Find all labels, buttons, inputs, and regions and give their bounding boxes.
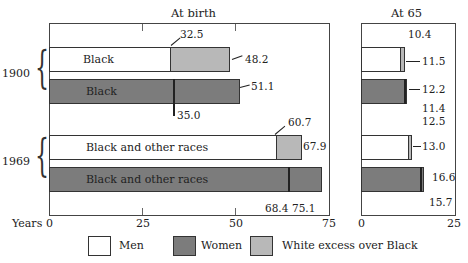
legend-swatch-women [173, 236, 196, 256]
brace-1900-icon: { [35, 46, 49, 90]
x-axis-label: Years [12, 217, 42, 230]
bar65-1969-men-black [361, 135, 409, 160]
bar-label-1969-women: Black and other races [86, 173, 208, 186]
bar-label-1900-men: Black [83, 53, 114, 66]
value65-1969-women-white: 16.6 [432, 171, 455, 183]
tick65-label-0: 0 [358, 217, 365, 230]
tick-bottom-25 [142, 208, 143, 215]
bar-1900-women [49, 79, 240, 104]
bar65-1969-men-white-excess [408, 135, 412, 160]
value-1900-women-white: 51.1 [251, 80, 274, 92]
value65-1900-women-black: 11.4 [422, 102, 445, 114]
value65-1969-women-black: 15.7 [429, 196, 452, 208]
legend-swatch-men [88, 236, 111, 256]
bar65-1969-women [361, 167, 424, 192]
bar65-1900-men-white-excess [400, 47, 405, 72]
divider-1900-women-black [173, 79, 175, 116]
bar-1900-men-white-excess [170, 47, 230, 72]
arrow65-1900-women-white-icon [409, 89, 420, 90]
tick-label-0: 0 [46, 217, 53, 230]
value65-1900-men-white: 11.5 [422, 55, 445, 67]
value-1969-men-black: 60.7 [288, 116, 311, 128]
value-1969-women-black: 68.4 [265, 202, 288, 214]
panel-title-at-65: At 65 [391, 6, 422, 20]
value65-1969-men-black: 12.5 [422, 115, 445, 127]
brace-1969-icon: { [35, 134, 49, 178]
tick-top-50 [235, 24, 236, 31]
tick-label-50: 50 [229, 217, 243, 230]
bar-label-1900-women: Black [86, 85, 117, 98]
divider65-1900-women [404, 79, 406, 104]
value65-1900-women-white: 12.2 [422, 83, 445, 95]
bar-label-1969-men: Black and other races [86, 141, 208, 154]
divider65-1969-women [420, 167, 422, 192]
legend-swatch-white-excess [250, 236, 273, 256]
tick-top-25 [142, 24, 143, 31]
arrow65-1900-men-white-icon [406, 61, 420, 62]
bar65-1900-men-black [361, 47, 401, 72]
value-1900-men-white: 48.2 [245, 53, 268, 65]
legend-label-white-excess: White excess over Black [282, 239, 418, 252]
legend-label-women: Women [201, 239, 242, 252]
value65-1900-men-black: 10.4 [408, 28, 431, 40]
tick65-label-25: 25 [447, 217, 461, 230]
tick-label-25: 25 [136, 217, 150, 230]
value-1969-women-white: 75.1 [292, 202, 315, 214]
value-1969-men-white: 67.9 [303, 140, 326, 152]
arrow65-1969-men-white-icon [413, 146, 421, 147]
legend-label-men: Men [119, 239, 144, 252]
value-1900-men-black: 32.5 [180, 28, 203, 40]
panel-title-at-birth: At birth [171, 6, 216, 20]
tick-bottom-50 [235, 208, 236, 215]
bar-1969-men-white-excess [276, 135, 302, 160]
tick-label-75: 75 [322, 217, 336, 230]
value-1900-women-black: 35.0 [177, 109, 200, 121]
group-label-1900: 1900 [2, 67, 30, 80]
bar65-1900-women [361, 79, 407, 104]
group-label-1969: 1969 [2, 155, 30, 168]
value65-1969-men-white: 13.0 [422, 140, 445, 152]
divider-1969-women-black [288, 167, 290, 192]
